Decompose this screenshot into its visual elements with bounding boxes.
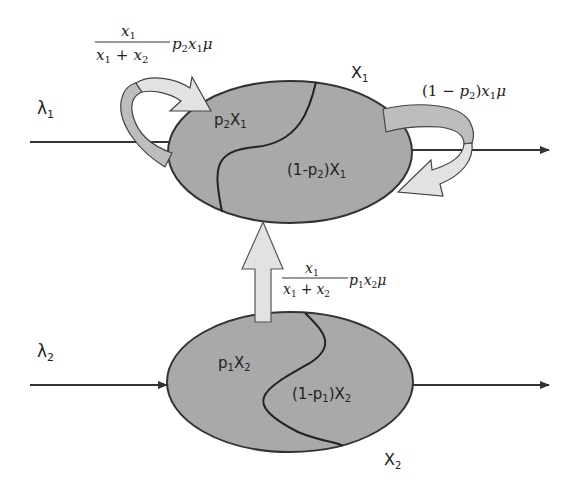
queue2-ellipse <box>167 312 413 452</box>
svg-text:x1+x2: x1+x2 <box>283 281 330 299</box>
queue-diagram: λ1 λ2 X1 X2 p2X1 (1-p2)X1 p1X2 (1-p1)X2 … <box>0 0 579 489</box>
svg-text:x1: x1 <box>121 22 136 41</box>
queue1-name-label: X1 <box>351 63 368 84</box>
svg-text:p1x2μ: p1x2μ <box>349 272 386 290</box>
transfer-rate-formula: x1 x1+x2 p1x2μ <box>282 260 386 299</box>
exit-rate-formula: (1 − p2)x1μ <box>422 82 506 101</box>
queue2-name-label: X2 <box>384 450 401 471</box>
transfer-arrow <box>242 222 283 322</box>
queue1-region-right-label: (1-p2)X1 <box>287 161 346 180</box>
svg-text:p2x1μ: p2x1μ <box>172 35 213 54</box>
self-loop-rate-formula: x1 x1+x2 p2x1μ <box>95 22 213 65</box>
queue2-region-right-label: (1-p1)X2 <box>292 385 351 404</box>
svg-text:x1: x1 <box>305 260 319 278</box>
lambda1-label: λ1 <box>37 98 54 121</box>
svg-text:(1 − p2)x1μ: (1 − p2)x1μ <box>422 82 506 101</box>
diagram-svg: λ1 λ2 X1 X2 p2X1 (1-p2)X1 p1X2 (1-p1)X2 … <box>0 0 579 489</box>
lambda2-label: λ2 <box>37 341 54 364</box>
svg-text:x1+x2: x1+x2 <box>96 46 148 65</box>
